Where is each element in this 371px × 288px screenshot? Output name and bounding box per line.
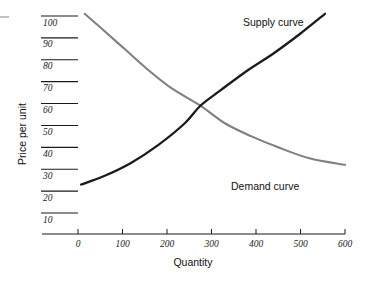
x-tick-label: 100 bbox=[115, 239, 130, 249]
y-tick-label: 60 bbox=[43, 105, 53, 115]
x-tick-label: 300 bbox=[203, 239, 219, 249]
y-tick-label: 100 bbox=[43, 18, 58, 28]
chart-canvas: 102030405060708090100 010020030040050060… bbox=[0, 0, 371, 288]
supply-curve bbox=[81, 14, 325, 185]
y-tick-label: 10 bbox=[43, 215, 53, 225]
y-tick-label: 30 bbox=[42, 171, 53, 181]
x-tick-label: 600 bbox=[338, 239, 353, 249]
y-axis-title: Price per unit bbox=[16, 103, 28, 165]
x-axis: 0100200300400500600 bbox=[76, 229, 353, 249]
y-tick-label: 80 bbox=[43, 61, 53, 71]
x-tick-label: 400 bbox=[249, 239, 264, 249]
y-tick-label: 50 bbox=[43, 127, 53, 137]
x-tick-label: 500 bbox=[293, 239, 308, 249]
y-tick-label: 20 bbox=[43, 193, 53, 203]
supply-demand-chart: 102030405060708090100 010020030040050060… bbox=[0, 0, 371, 288]
x-tick-label: 200 bbox=[160, 239, 175, 249]
demand-curve bbox=[85, 14, 345, 165]
x-tick-label: 0 bbox=[76, 239, 81, 249]
y-tick-label: 70 bbox=[43, 83, 53, 93]
x-axis-title: Quantity bbox=[173, 256, 213, 268]
y-tick-label: 40 bbox=[43, 149, 53, 159]
demand-curve-label: Demand curve bbox=[231, 180, 299, 192]
y-tick-label: 90 bbox=[43, 39, 53, 49]
supply-curve-label: Supply curve bbox=[243, 16, 304, 28]
y-axis: 102030405060708090100 bbox=[41, 16, 78, 225]
